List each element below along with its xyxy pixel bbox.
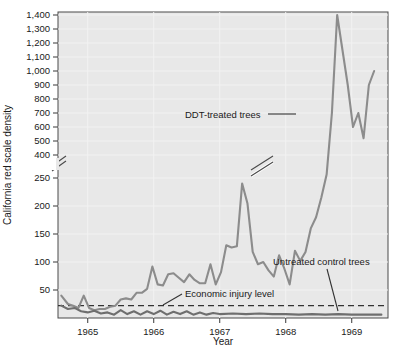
y-axis-title: California red scale density — [2, 105, 13, 225]
y-axis-tick-labels: 501001502002504005006007008009001,0001,1… — [26, 9, 50, 295]
y-tick-label: 200 — [34, 200, 50, 211]
x-tick-label: 1968 — [275, 326, 296, 337]
y-tick-label: 400 — [34, 149, 50, 160]
annotation-ddt-label: DDT-treated trees — [185, 109, 261, 120]
annotation-control-label: Untreated control trees — [273, 256, 370, 267]
y-tick-label: 1,200 — [26, 37, 50, 48]
x-tick-label: 1965 — [77, 326, 98, 337]
x-axis-ticks — [88, 318, 352, 323]
y-tick-label: 1,400 — [26, 9, 50, 20]
y-tick-label: 1,300 — [26, 23, 50, 34]
y-tick-label: 600 — [34, 121, 50, 132]
y-tick-label: 700 — [34, 107, 50, 118]
plot-area-background — [58, 12, 388, 318]
chart-figure: 501001502002504005006007008009001,0001,1… — [0, 0, 414, 350]
x-tick-label: 1969 — [341, 326, 362, 337]
y-tick-label: 800 — [34, 93, 50, 104]
y-tick-label: 250 — [34, 172, 50, 183]
y-tick-label: 900 — [34, 79, 50, 90]
red-scale-density-line-chart: 501001502002504005006007008009001,0001,1… — [0, 0, 414, 350]
y-tick-label: 1,100 — [26, 51, 50, 62]
y-tick-label: 50 — [39, 284, 50, 295]
annotation-threshold-label: Economic injury level — [185, 288, 274, 299]
y-tick-label: 150 — [34, 228, 50, 239]
y-tick-label: 100 — [34, 256, 50, 267]
x-tick-label: 1966 — [143, 326, 164, 337]
y-axis-ticks — [53, 15, 58, 290]
x-axis-title: Year — [213, 336, 234, 347]
y-tick-label: 500 — [34, 135, 50, 146]
y-tick-label: 1,000 — [26, 65, 50, 76]
